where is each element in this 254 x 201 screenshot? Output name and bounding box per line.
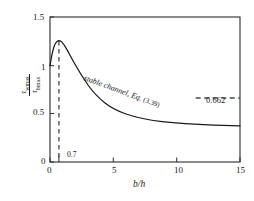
y-tick-label-1.5: 1.5 <box>33 13 44 22</box>
plot-frame <box>50 17 240 162</box>
tau-subscript-denominator: bmax <box>35 77 41 90</box>
x-tick-label-0: 0 <box>47 166 52 175</box>
x-tick-label-5: 5 <box>112 166 117 175</box>
tau-symbol-numerator: τ <box>18 91 28 94</box>
y-tick-label-0.5: 0.5 <box>33 108 44 117</box>
x-tick-label-10: 10 <box>174 166 183 175</box>
tau-symbol-denominator: τ <box>29 90 39 93</box>
y-axis-denominator: τbmax <box>30 75 39 95</box>
stable-channel-curve <box>50 41 240 126</box>
y-tick-label-0: 0 <box>41 157 46 166</box>
peak-x-value-label: 0.7 <box>67 151 76 159</box>
y-axis-fraction: τwmax τbmax <box>19 74 39 96</box>
x-tick-label-15: 15 <box>236 166 245 175</box>
asymptote-value-label: 0.662 <box>206 96 225 105</box>
x-axis-ticks <box>50 155 240 162</box>
figure-container: 1.5 1 0.5 0 0 5 10 15 b/h τwmax τbmax st… <box>0 0 254 201</box>
y-axis-numerator: τwmax <box>19 74 29 96</box>
axes-border <box>50 17 240 162</box>
y-axis-title: τwmax τbmax <box>1 70 57 100</box>
x-axis-title: b/h <box>133 180 145 190</box>
